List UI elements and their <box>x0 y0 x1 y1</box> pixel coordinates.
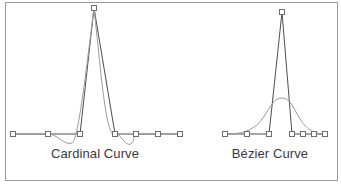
control-point-marker[interactable] <box>156 132 161 137</box>
control-point-marker[interactable] <box>245 132 250 137</box>
control-point-marker[interactable] <box>134 132 139 137</box>
control-point-marker[interactable] <box>46 132 51 137</box>
control-point-marker[interactable] <box>223 132 228 137</box>
control-point-marker[interactable] <box>267 132 272 137</box>
control-point-marker[interactable] <box>301 132 306 137</box>
cardinal-curve-label: Cardinal Curve <box>0 146 190 161</box>
control-point-marker[interactable] <box>323 132 328 137</box>
control-point-marker[interactable] <box>78 132 83 137</box>
control-point-marker[interactable] <box>113 132 118 137</box>
control-point-marker[interactable] <box>290 132 295 137</box>
control-point-marker-peak[interactable] <box>280 10 285 15</box>
control-point-marker[interactable] <box>178 132 183 137</box>
control-point-marker-peak[interactable] <box>92 6 97 11</box>
control-point-marker[interactable] <box>312 132 317 137</box>
figure-root: Cardinal Curve Bézier Curve <box>0 0 341 186</box>
bezier-control-polygon <box>225 12 325 134</box>
panel-cardinal <box>11 6 183 145</box>
bezier-interpolated-curve <box>225 98 325 134</box>
cardinal-interpolated-curve <box>13 8 180 144</box>
bezier-curve-label: Bézier Curve <box>205 146 335 161</box>
panel-bezier <box>223 10 328 137</box>
control-point-marker[interactable] <box>11 132 16 137</box>
